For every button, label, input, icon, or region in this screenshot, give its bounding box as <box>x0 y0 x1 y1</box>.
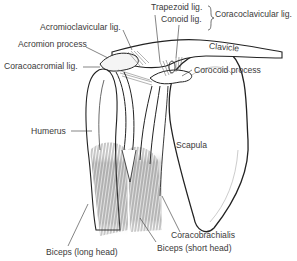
coracoid-shape <box>150 70 192 84</box>
shoulder-anatomy-diagram: Acromioclavicular lig. Acromion process … <box>0 0 297 261</box>
brace-coracoclavicular <box>208 6 214 30</box>
acromion-shape <box>100 53 138 71</box>
label-coracoclavicular-lig: Coracoclavicular lig. <box>215 10 292 19</box>
label-coracobrachialis: Coracobrachialis <box>171 231 235 240</box>
label-humerus: Humerus <box>31 127 66 136</box>
label-biceps-long-head: Biceps (long head) <box>46 248 118 257</box>
leader-biceps-long <box>68 204 88 246</box>
label-conoid-lig: Conoid lig. <box>161 15 202 24</box>
leader-coracobrachialis <box>162 196 180 232</box>
label-biceps-short-head: Biceps (short head) <box>157 244 232 253</box>
leader-acromion <box>86 47 108 58</box>
label-coracoid-process: Corocoid process <box>194 66 261 75</box>
label-trapezoid-lig: Trapezoid lig. <box>151 3 202 12</box>
label-coracoacromial-lig: Coracoacromial lig. <box>4 62 78 71</box>
label-acromion-process: Acromion process <box>18 40 87 49</box>
label-scapula: Scapula <box>176 141 207 150</box>
leader-acromioclavicular <box>123 30 132 50</box>
label-acromioclavicular-lig: Acromioclavicular lig. <box>40 23 121 32</box>
